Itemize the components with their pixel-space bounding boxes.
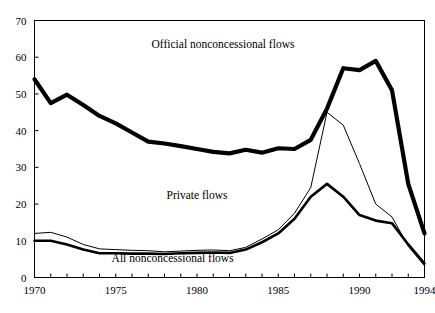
- y-axis-tick-label: 30: [16, 161, 28, 173]
- x-axis-tick-label: 1985: [267, 284, 290, 296]
- x-axis-tick-label: 1980: [186, 284, 209, 296]
- series-label-official-nonconcessional-flows: Official nonconcessional flows: [152, 38, 295, 50]
- series-label-private-flows: Private flows: [166, 189, 228, 201]
- y-axis-tick-label: 70: [16, 15, 28, 27]
- y-axis-tick-label: 40: [16, 125, 28, 137]
- x-axis-tick-label: 1990: [349, 284, 372, 296]
- y-axis-tick-label: 50: [16, 88, 28, 100]
- chart-container: 010203040506070 197019751980198519901994…: [0, 0, 435, 313]
- y-axis-tick-label: 20: [16, 198, 28, 210]
- x-axis-tick-label: 1970: [24, 284, 47, 296]
- y-axis-tick-label: 60: [16, 51, 28, 63]
- x-axis-tick-label: 1975: [105, 284, 128, 296]
- y-axis-tick-label: 10: [16, 235, 28, 247]
- y-axis-tick-label: 0: [21, 272, 27, 284]
- x-axis-tick-label: 1994: [414, 284, 435, 296]
- series-label-all-nonconcessional-flows: All nonconcessional flows: [112, 252, 235, 264]
- line-chart: 010203040506070 197019751980198519901994…: [0, 0, 435, 313]
